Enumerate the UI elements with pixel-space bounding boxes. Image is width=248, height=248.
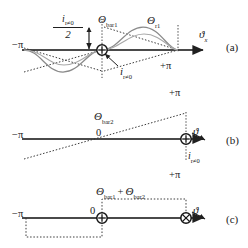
panel-a-theta-bar-lower <box>24 48 102 71</box>
panel-a-current-subscript: r≠0 <box>123 73 132 80</box>
panel-b-current-label: ir≠0 <box>188 146 200 165</box>
panel-a-current-label: ir≠0 <box>120 62 132 81</box>
panel-c-left-tick-label: −π <box>12 209 23 220</box>
panel-b-current-subscript: r≠0 <box>191 157 200 164</box>
panel-a-left-tick-label: −π <box>12 40 23 51</box>
panel-b-theta-bar2-label: Θbar2 <box>94 107 114 126</box>
panel-a-amplitude-arrow-head-up <box>87 27 92 32</box>
panel-a-current-leader <box>105 54 118 66</box>
panel-a-current-marker <box>97 45 107 55</box>
panel-c-current-marker-in <box>97 213 107 223</box>
panel-b-axis-variable-subscript: x <box>198 133 201 140</box>
panel-c-right-tick-label: +π <box>169 170 180 181</box>
panel-c-graphics <box>22 199 205 237</box>
panel-a-fraction-numerator: ir≠0 <box>53 14 83 27</box>
panel-c-caption: (c) <box>226 210 238 226</box>
panel-a-theta-r-symbol: Θ <box>147 14 155 26</box>
figure-canvas <box>0 0 248 248</box>
panel-a-right-tick-label: +π <box>160 61 171 72</box>
panel-a-caption: (a) <box>226 38 238 54</box>
panel-a-fraction-denominator: 2 <box>53 29 83 41</box>
panel-b-theta-bar2-subscript: bar2 <box>102 118 114 125</box>
panel-c-theta-sum-first-subscript: bar1 <box>104 193 116 200</box>
panel-a-theta-bar-symbol: Θ <box>98 13 106 25</box>
panel-a-theta-r-label: Θr1 <box>147 11 160 30</box>
panel-b-right-tick-label: +π <box>169 88 180 99</box>
panel-a-axis-variable: ϑx <box>199 25 207 44</box>
panel-a-half-current-fraction: ir≠0 2 <box>53 14 83 40</box>
panel-b-theta-bar2-symbol: Θ <box>94 110 102 122</box>
panel-c-theta-sum-first-symbol: Θ <box>96 185 104 197</box>
panel-c-theta-sum-plus: + <box>116 186 126 197</box>
panel-a-caption-text: (a) <box>226 41 238 53</box>
panel-a-theta-r-subscript: r1 <box>155 22 160 29</box>
panel-a-axis-variable-subscript: x <box>204 36 207 43</box>
figure-root: −π +π ϑx (a) Θbar1 Θr1 ir≠0 2 ir≠0 −π 0 … <box>0 0 248 248</box>
panel-c-current-marker-out <box>181 213 191 223</box>
panel-c-axis-variable: ϑx <box>193 201 201 220</box>
panel-b-left-tick-label: −π <box>12 130 23 141</box>
panel-b-caption: (b) <box>226 131 239 147</box>
panel-a-fraction-numerator-subscript: r≠0 <box>65 19 74 26</box>
panel-b-axis-variable: ϑx <box>193 122 201 141</box>
panel-c-axis-variable-subscript: x <box>198 212 201 219</box>
panel-c-zero-tick-label: 0 <box>90 206 95 217</box>
panel-b-caption-text: (b) <box>226 134 239 146</box>
panel-a-graphics <box>22 21 203 78</box>
panel-c-theta-sum-second-subscript: bar2 <box>133 193 145 200</box>
panel-a-theta-bar-label: Θbar1 <box>98 10 118 29</box>
panel-c-caption-text: (c) <box>226 213 238 225</box>
panel-b-current-marker <box>181 134 191 144</box>
panel-b-zero-tick-label: 0 <box>96 128 101 139</box>
panel-c-theta-sum-label: Θbar1+Θbar2 <box>96 182 145 201</box>
panel-a-theta-bar-subscript: bar1 <box>106 21 118 28</box>
panel-a-theta-bar-left <box>24 50 102 72</box>
